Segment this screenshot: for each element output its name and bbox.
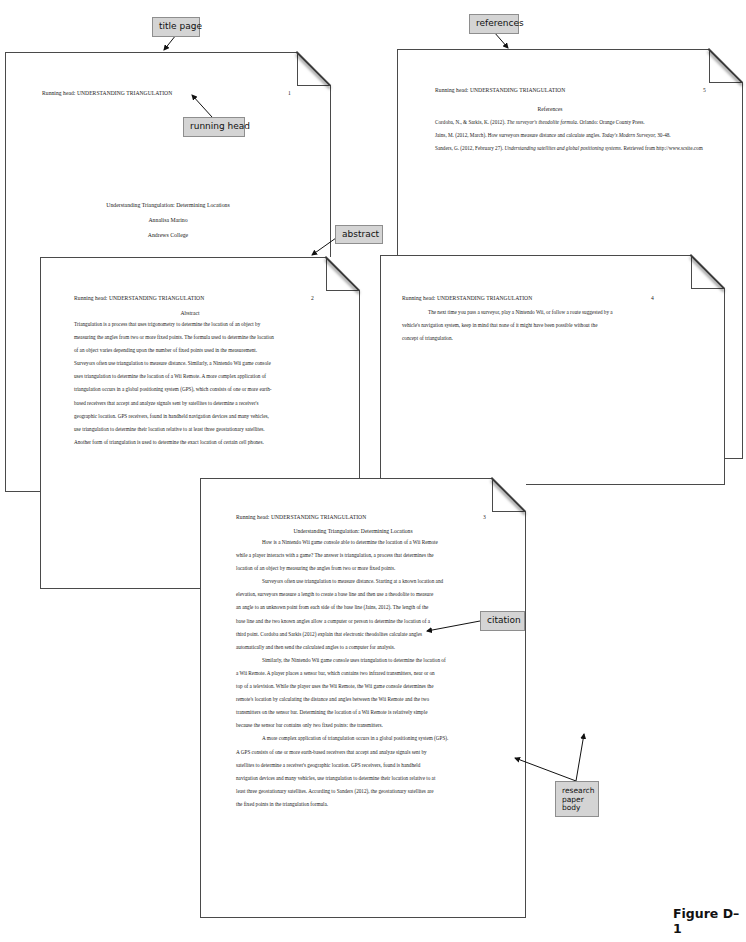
text-line: top of a television. While the player us…	[236, 680, 498, 693]
page-number: 1	[288, 90, 291, 96]
folded-corner-icon	[297, 52, 331, 86]
reference-list: Cordoba, N., & Sarkis, K. (2012). The su…	[435, 116, 703, 155]
conclusion-text: The next time you pass a surveyor, play …	[402, 306, 664, 345]
page-number: 4	[651, 295, 654, 301]
abstract-text: Triangulation is a process that uses tri…	[74, 318, 324, 449]
folded-corner-icon	[326, 257, 360, 291]
text-line: A more complex application of triangulat…	[236, 732, 498, 745]
text-line: navigation devices and many vehicles, us…	[236, 772, 498, 785]
callout-research-paper-body: research paper body	[555, 781, 599, 817]
references-heading: References	[357, 106, 743, 112]
text-line: triangulation occurs in a global positio…	[74, 383, 324, 396]
text-line: based receivers that accept and analyze …	[74, 397, 324, 410]
text-line: of an object varies depending upon the n…	[74, 344, 324, 357]
text-line: remote's location by calculating the dis…	[236, 693, 498, 706]
folded-corner-icon	[492, 478, 526, 512]
text-line: least three geostationary satellites. Ac…	[236, 785, 498, 798]
text-line: use triangulation to determine their loc…	[74, 423, 324, 436]
text-line: Triangulation is a process that uses tri…	[74, 318, 324, 331]
text-line: the fixed points in the triangulation fo…	[236, 798, 498, 811]
callout-citation: citation	[480, 611, 525, 631]
text-line: Surveyors often use triangulation to mea…	[236, 575, 498, 588]
folded-corner-icon	[691, 255, 725, 289]
text-line: Similarly, the Nintendo Wii game console…	[236, 654, 498, 667]
text-line: Another form of triangulation is used to…	[74, 436, 324, 449]
text-line: Surveyors often use triangulation to mea…	[74, 357, 324, 370]
text-line: geographic location. GPS receivers, foun…	[74, 410, 324, 423]
body-text: How is a Nintendo Wii game console able …	[236, 536, 498, 811]
abstract-heading: Abstract	[20, 310, 360, 316]
reference-entry: Jains, M. (2012, March). How surveyors m…	[435, 129, 703, 142]
text-line: The next time you pass a surveyor, play …	[402, 306, 664, 319]
running-head: Running head: UNDERSTANDING TRIANGULATIO…	[74, 295, 204, 301]
text-line: measuring the angles from two or more fi…	[74, 331, 324, 344]
callout-abstract: abstract	[335, 225, 383, 244]
running-head: Running head: UNDERSTANDING TRIANGULATIO…	[236, 514, 366, 520]
text-line: transmitters on the sensor bar. Determin…	[236, 706, 498, 719]
text-line: uses triangulation to determine the loca…	[74, 370, 324, 383]
text-line: while a player interacts with a game? Th…	[236, 549, 498, 562]
callout-references: references	[469, 14, 519, 34]
page-number: 5	[703, 87, 706, 93]
text-line: A GPS consists of one or more earth-base…	[236, 746, 498, 759]
text-line: an angle to an unknown point from each s…	[236, 601, 498, 614]
text-line: elevation, surveyors measure a length to…	[236, 588, 498, 601]
text-line: location of an object by measuring the a…	[236, 562, 498, 575]
text-line: automatically and then send the calculat…	[236, 641, 498, 654]
text-line: How is a Nintendo Wii game console able …	[236, 536, 498, 549]
text-line: base line and the two known angles allow…	[236, 615, 498, 628]
research-body-page: Running head: UNDERSTANDING TRIANGULATIO…	[200, 478, 526, 918]
running-head: Running head: UNDERSTANDING TRIANGULATIO…	[402, 295, 532, 301]
figure-label: Figure D–1	[673, 906, 746, 936]
conclusion-page: Running head: UNDERSTANDING TRIANGULATIO…	[380, 255, 725, 485]
text-line: because the sensor bar contains only two…	[236, 719, 498, 732]
text-line: concept of triangulation.	[402, 332, 664, 345]
paper-title: Understanding Triangulation: Determining…	[5, 202, 331, 208]
reference-entry: Cordoba, N., & Sarkis, K. (2012). The su…	[435, 116, 703, 129]
institution: Andrews College	[5, 232, 331, 238]
reference-entry: Sanders, G. (2012, February 27). Underst…	[435, 142, 703, 155]
body-heading: Understanding Triangulation: Determining…	[180, 528, 526, 534]
page-number: 2	[311, 295, 314, 301]
text-line: vehicle's navigation system, keep in min…	[402, 319, 664, 332]
callout-title-page: title page	[152, 17, 200, 37]
page-number: 3	[483, 514, 486, 520]
text-line: third point. Cordoba and Sarkis (2012) e…	[236, 628, 498, 641]
text-line: satellites to determine a receiver's geo…	[236, 759, 498, 772]
running-head: Running head: UNDERSTANDING TRIANGULATIO…	[435, 87, 565, 93]
folded-corner-icon	[709, 49, 743, 83]
callout-running-head: running head	[183, 117, 245, 137]
running-head: Running head: UNDERSTANDING TRIANGULATIO…	[42, 90, 172, 96]
text-line: a Wii Remote. A player places a sensor b…	[236, 667, 498, 680]
author-name: Annalisa Marino	[5, 217, 331, 223]
